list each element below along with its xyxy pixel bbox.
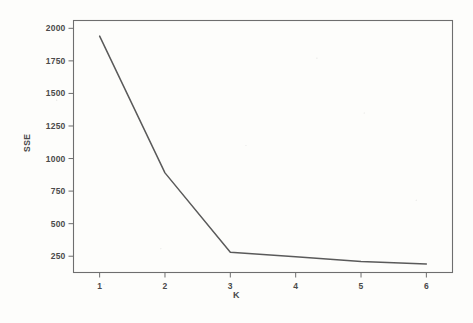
x-tick-label: 1 <box>97 281 102 291</box>
sse-line-series <box>100 36 427 264</box>
y-tick-label: 750 <box>51 186 66 196</box>
y-tick-marks <box>69 28 74 256</box>
y-tick-label: 250 <box>51 251 66 261</box>
y-axis-title: SSE <box>22 133 32 152</box>
y-tick-label: 1250 <box>46 121 66 131</box>
y-tick-label: 500 <box>51 219 66 229</box>
x-tick-label: 3 <box>228 281 233 291</box>
y-tick-label: 1750 <box>46 56 66 66</box>
x-tick-label: 6 <box>424 281 429 291</box>
y-tick-label: 2000 <box>46 23 66 33</box>
plot-frame <box>74 21 453 273</box>
x-tick-label: 4 <box>293 281 298 291</box>
y-tick-label: 1000 <box>46 154 66 164</box>
x-tick-marks <box>100 273 427 278</box>
elbow-plot-figure: 25050075010001250150017502000 123456 SSE… <box>0 0 473 323</box>
x-tick-label: 5 <box>359 281 364 291</box>
plot-canvas <box>0 0 473 323</box>
x-tick-label: 2 <box>163 281 168 291</box>
x-axis-title: K <box>0 290 473 300</box>
y-tick-label: 1500 <box>46 88 66 98</box>
chart-screenshot: 25050075010001250150017502000 123456 SSE… <box>0 0 473 323</box>
